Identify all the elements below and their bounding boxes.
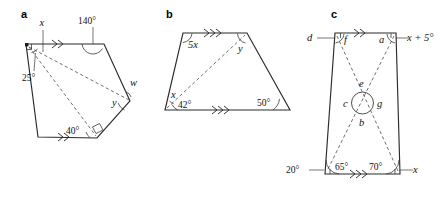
label-f: f [344, 34, 349, 45]
arc-f [336, 34, 345, 43]
panel-a-drawing: x 25° 140° w y [0, 0, 150, 207]
label-42-degrees: 42° [178, 100, 192, 110]
arc-40 [86, 132, 90, 138]
diagonal-tr-bl [327, 36, 394, 171]
label-20-degrees: 20° [286, 165, 300, 175]
label-b: b [359, 117, 364, 128]
panel-a: a x 25° [0, 0, 150, 207]
label-c: c [343, 98, 348, 109]
centre-circle [352, 92, 374, 114]
label-50-degrees: 50° [257, 98, 271, 108]
label-w: w [130, 77, 137, 88]
label-x-c: x [412, 164, 418, 175]
leader-25 [34, 53, 36, 71]
arc-y-b [238, 34, 246, 44]
arc-140 [82, 44, 103, 54]
label-a: a [379, 34, 384, 45]
label-140-degrees: 140° [78, 16, 96, 26]
arc-50 [273, 99, 280, 110]
label-x-b: x [170, 89, 176, 100]
figure-canvas: a x 25° [0, 0, 442, 207]
label-y-b: y [237, 43, 243, 54]
label-5x: 5x [188, 39, 198, 50]
panel-c: c e c g b d f a x + 5° [295, 0, 442, 207]
label-x-plus-5: x + 5° [406, 32, 434, 43]
diagonal-tl-to-right [29, 47, 129, 100]
diagonal-tl-to-bottom-right [29, 47, 96, 136]
arc-42 [172, 105, 178, 111]
right-angle-mark-bottom-right [93, 124, 104, 134]
label-65-degrees: 65° [335, 162, 349, 172]
panel-c-drawing: e c g b d f a x + 5° 20° 65° 70° [295, 0, 442, 207]
pentagon-outline [26, 44, 130, 138]
label-e: e [359, 78, 364, 89]
panel-b: b 5x y x 42° 50° [150, 0, 295, 207]
label-d: d [307, 32, 313, 43]
label-40-degrees: 40° [66, 126, 80, 136]
diagonal-bl-to-tr [167, 35, 245, 108]
panel-b-drawing: 5x y x 42° 50° [150, 0, 295, 207]
label-y: y [111, 97, 117, 108]
label-25-degrees: 25° [22, 73, 36, 83]
vertex-dot-top-left [25, 43, 28, 46]
arc-70 [386, 160, 399, 174]
label-g: g [377, 98, 382, 109]
label-70-degrees: 70° [369, 162, 383, 172]
label-x: x [39, 17, 45, 28]
trapezium-outline [165, 33, 290, 110]
